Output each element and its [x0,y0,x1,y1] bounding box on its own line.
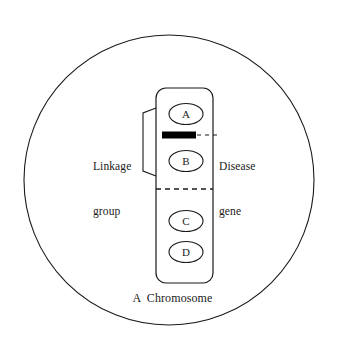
disease-gene-label: Disease gene [219,129,255,249]
locus-label-d: D [182,246,190,258]
linkage-group-label-line2: group [93,204,131,219]
disease-gene-label-line2: gene [219,204,255,219]
chromosome-diagram: A B C D Linkage group Disease gene A Chr… [0,0,345,363]
linkage-group-label-line1: Linkage [93,159,131,174]
diagram-canvas: A B C D [0,0,345,363]
locus-label-b: B [182,155,189,167]
locus-label-a: A [182,108,190,120]
disease-gene-label-line1: Disease [219,159,255,174]
figure-caption: A Chromosome [0,291,345,306]
cell-boundary-circle [24,35,314,325]
linkage-group-bracket [143,108,156,176]
locus-label-c: C [182,215,189,227]
linkage-group-label: Linkage group [93,129,131,249]
disease-gene-bar [162,132,196,139]
